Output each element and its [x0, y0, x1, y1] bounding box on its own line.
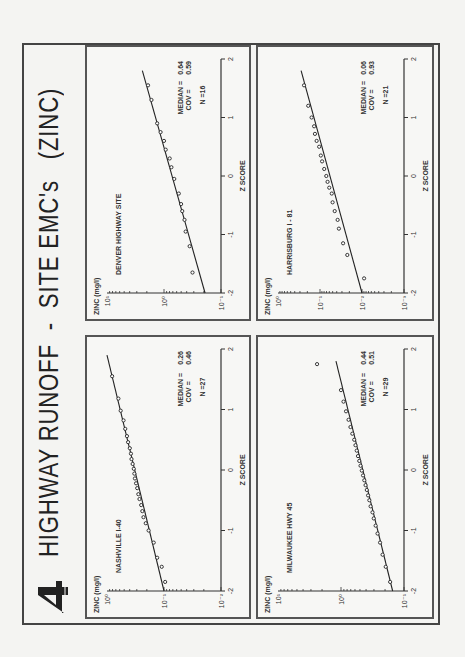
data-point — [321, 160, 324, 163]
data-point — [355, 449, 358, 452]
data-point — [315, 139, 318, 142]
x-axis-label: Z SCORE — [239, 454, 246, 485]
median-label: MEDIAN = — [360, 81, 367, 115]
data-point — [351, 432, 354, 435]
data-point — [147, 529, 150, 532]
data-point — [339, 389, 342, 392]
data-point — [342, 242, 345, 245]
data-point — [184, 230, 187, 233]
y-tick-label: 10⁻¹ — [401, 593, 408, 608]
data-point — [117, 397, 120, 400]
data-point — [366, 494, 369, 497]
cov-value: 0.59 — [185, 61, 192, 75]
data-point — [325, 174, 328, 177]
data-point — [344, 410, 347, 413]
chart-svg: 10⁻²10⁻¹10⁰ZINC (mg/l)-2-1012Z SCORENASH… — [87, 337, 249, 617]
median-value: 0.06 — [360, 61, 367, 75]
x-tick-label: -2 — [410, 290, 417, 296]
y-tick-label: 10⁻² — [359, 295, 366, 310]
y-tick-label: 10⁻¹ — [317, 295, 324, 310]
y-tick-label: 10⁰ — [338, 594, 345, 605]
page-title: HIGHWAY RUNOFF - SITE EMC's (ZINC) — [34, 88, 65, 557]
data-point — [371, 511, 374, 514]
data-point — [376, 532, 379, 535]
data-point — [330, 192, 333, 195]
data-point — [129, 452, 132, 455]
y-tick-label: 10⁻¹ — [218, 295, 225, 310]
x-tick-label: -1 — [410, 231, 417, 237]
median-label: MEDIAN = — [177, 373, 184, 407]
x-tick-label: 0 — [410, 174, 417, 178]
data-point — [319, 154, 322, 157]
data-point — [318, 145, 321, 148]
chart-svg: 10⁻³10⁻²10⁻¹10⁰ZINC (mg/l)-2-1012Z SCORE… — [258, 47, 432, 319]
data-point — [140, 503, 143, 506]
x-axis-label: Z SCORE — [422, 160, 429, 191]
y-axis-label: ZINC (mg/l) — [93, 278, 101, 315]
y-tick-label: 10⁻² — [218, 593, 225, 608]
title-row: HIGHWAY RUNOFF - SITE EMC's (ZINC) — [32, 47, 76, 617]
data-point — [122, 419, 125, 422]
fit-line — [301, 71, 362, 293]
y-tick-label: 10¹ — [104, 295, 111, 306]
data-point — [191, 271, 194, 274]
data-point — [389, 580, 392, 583]
y-tick-label: 10⁰ — [161, 296, 168, 307]
n-count: N =16 — [199, 86, 206, 105]
data-point — [111, 375, 114, 378]
x-tick-label: 2 — [410, 57, 417, 61]
fit-line — [142, 71, 205, 293]
data-point — [144, 522, 147, 525]
data-point — [162, 139, 165, 142]
n-count: N =27 — [199, 377, 206, 396]
x-tick-label: 0 — [227, 174, 234, 178]
data-point — [142, 516, 145, 519]
x-tick-label: 2 — [227, 347, 234, 351]
data-point — [164, 148, 167, 151]
data-point — [146, 84, 149, 87]
data-point — [134, 482, 137, 485]
data-point — [168, 157, 171, 160]
data-point — [128, 447, 131, 450]
site-title: MILWAUKEE HWY 45 — [286, 503, 293, 573]
data-point — [356, 454, 359, 457]
chart-panel-harrisburg: 10⁻³10⁻²10⁻¹10⁰ZINC (mg/l)-2-1012Z SCORE… — [256, 45, 434, 321]
data-point — [150, 98, 153, 101]
chart-svg: 10⁻¹10⁰10¹ZINC (mg/l)-2-1012Z SCOREDENVE… — [87, 47, 249, 319]
y-tick-label: 10¹ — [275, 593, 282, 604]
data-point — [133, 472, 136, 475]
cov-value: 0.46 — [185, 351, 192, 365]
figure-number-logo-icon — [34, 577, 70, 617]
y-tick-label: 10⁰ — [104, 594, 111, 605]
y-axis-label: ZINC (mg/l) — [264, 576, 272, 613]
data-point — [374, 524, 377, 527]
data-point — [124, 427, 127, 430]
y-axis-label: ZINC (mg/l) — [264, 278, 272, 315]
data-point — [360, 469, 363, 472]
data-point — [313, 132, 316, 135]
document-page: HIGHWAY RUNOFF - SITE EMC's (ZINC) 10⁻²1… — [0, 0, 465, 657]
data-point — [337, 227, 340, 230]
data-point — [349, 425, 352, 428]
data-point — [159, 131, 162, 134]
cov-label: COV = — [368, 381, 375, 402]
data-point — [131, 462, 134, 465]
data-point — [183, 218, 186, 221]
data-point — [347, 418, 350, 421]
y-axis-label: ZINC (mg/l) — [93, 576, 101, 613]
x-tick-label: 0 — [410, 468, 417, 472]
data-point — [136, 487, 139, 490]
data-point — [359, 464, 362, 467]
x-tick-label: -1 — [227, 231, 234, 237]
cov-value: 0.51 — [368, 351, 375, 365]
data-point — [141, 510, 144, 513]
data-point — [164, 580, 167, 583]
x-tick-label: 2 — [227, 57, 234, 61]
cov-value: 0.93 — [368, 61, 375, 75]
y-tick-label: 10⁻¹ — [161, 593, 168, 608]
chart-panel-nashville: 10⁻²10⁻¹10⁰ZINC (mg/l)-2-1012Z SCORENASH… — [85, 335, 251, 619]
median-value: 0.64 — [177, 61, 184, 75]
data-point — [365, 488, 368, 491]
x-tick-label: -1 — [227, 527, 234, 533]
data-point — [326, 180, 329, 183]
